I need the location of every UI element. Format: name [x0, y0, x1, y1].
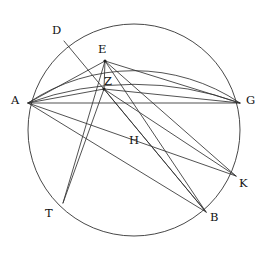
point-label-e: E	[98, 44, 106, 56]
geometry-canvas	[0, 0, 269, 257]
point-label-h: H	[129, 135, 139, 147]
point-label-g: G	[246, 95, 255, 107]
main-circle	[28, 24, 240, 236]
point-label-t: T	[45, 208, 53, 220]
segment-group	[28, 41, 240, 212]
geometry-figure: A B D E G H K T Z	[0, 0, 269, 257]
point-label-b: B	[210, 212, 218, 224]
vertex-dot-e	[103, 59, 106, 62]
segment-a-b	[28, 103, 206, 212]
point-label-d: D	[52, 25, 61, 37]
arc-a-z-g	[28, 84, 240, 103]
point-label-a: A	[11, 95, 19, 107]
point-label-z: Z	[104, 76, 112, 88]
point-label-k: K	[239, 178, 248, 190]
segment-z-k	[104, 89, 236, 176]
